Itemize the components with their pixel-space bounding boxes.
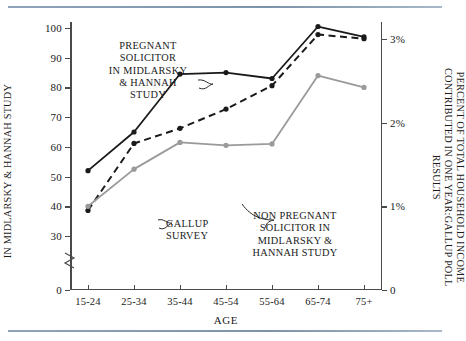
y-tick-label-left: 70	[51, 111, 62, 123]
y-tick-label-right: 0	[390, 284, 396, 296]
x-tick-label: 55-64	[259, 296, 285, 307]
y-tick-label-left: 50	[51, 171, 62, 183]
y-tick-left	[65, 290, 70, 291]
annotation-non-pregnant-solicitor: NON PREGNANT SOLICITOR IN MIDLARSKY & HA…	[226, 210, 364, 259]
y-tick-label-left: 80	[51, 81, 62, 93]
y-tick-label-left: 90	[51, 52, 62, 64]
y-axis-right-title: PERCENT OF TOTAL HOUSEHOLD INCOME CONTRI…	[430, 52, 466, 302]
x-tick-label: 15-24	[75, 296, 101, 307]
y-tick-label-right: 1%	[390, 200, 405, 212]
x-tick-label: 25-34	[121, 296, 147, 307]
y-tick-right	[382, 206, 387, 207]
top-divider-rule	[8, 6, 442, 8]
y-tick-right	[382, 123, 387, 124]
y-tick-label-left: 60	[51, 141, 62, 153]
y-tick-right	[382, 39, 387, 40]
y-tick-label-left: 30	[51, 230, 62, 242]
x-tick-label: 65-74	[305, 296, 331, 307]
x-tick-label: 75+	[355, 296, 372, 307]
y-tick-label-left: 0	[56, 284, 62, 296]
x-tick-label: 45-54	[213, 296, 239, 307]
y-tick-right	[382, 290, 387, 291]
annotation-pregnant-solicitor: PREGNANT SOLICITOR IN MIDLARSKY & HANNAH…	[82, 40, 214, 102]
y-tick-label-left: 40	[51, 200, 62, 212]
y-axis-left-title: PERCENT OF ADULTS WHO CONTRIBUTED IN MID…	[0, 56, 14, 286]
y-tick-label-right: 3%	[390, 33, 405, 45]
y-tick-label-left: 100	[45, 22, 62, 34]
y-tick-label-right: 2%	[390, 117, 405, 129]
plot-area: 100908070605040300 01%2%3% 15-2425-3435-…	[70, 22, 382, 290]
x-tick-label: 35-44	[167, 296, 193, 307]
bottom-divider-rule	[8, 330, 442, 332]
x-axis-title: AGE	[70, 314, 382, 326]
